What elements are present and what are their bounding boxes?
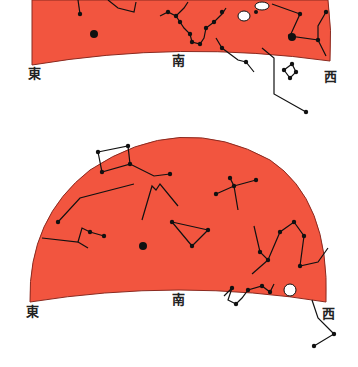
bottom-sky-dome <box>30 137 326 302</box>
star-icon <box>100 170 104 174</box>
star-icon <box>282 68 286 72</box>
star-icon <box>254 178 258 182</box>
star-icon <box>292 220 296 224</box>
star-icon <box>298 264 302 268</box>
star-icon <box>168 172 172 176</box>
star-chart-diagram: 東 南 西 東 南 西 <box>0 0 358 367</box>
star-icon <box>220 46 224 50</box>
star-icon <box>178 20 182 24</box>
constellation-hanging <box>262 48 308 114</box>
star-icon <box>174 14 178 18</box>
star-icon <box>228 176 232 180</box>
star-icon <box>244 60 248 64</box>
top-south-label: 南 <box>172 54 185 67</box>
star-icon <box>278 230 282 234</box>
star-icon <box>206 228 210 232</box>
bright-star-icon <box>90 30 98 38</box>
star-icon <box>258 250 262 254</box>
star-icon <box>290 62 294 66</box>
top-west-label: 西 <box>324 70 337 83</box>
star-icon <box>288 76 292 80</box>
star-icon <box>268 290 272 294</box>
star-icon <box>234 302 238 306</box>
bright-star-icon <box>139 242 147 250</box>
star-icon <box>190 40 194 44</box>
star-icon <box>266 258 270 262</box>
star-icon <box>332 332 336 336</box>
star-icon <box>304 110 308 114</box>
star-icon <box>78 12 82 16</box>
bright-star-icon <box>288 33 296 41</box>
star-icon <box>102 234 106 238</box>
top-east-label: 東 <box>28 67 41 80</box>
star-icon <box>232 184 236 188</box>
star-icon <box>324 10 328 14</box>
star-icon <box>204 26 208 30</box>
star-icon <box>312 344 316 348</box>
bottom-west-label: 西 <box>322 307 335 320</box>
star-icon <box>188 32 192 36</box>
star-icon <box>88 230 92 234</box>
constellation-small-quad <box>282 62 298 80</box>
star-icon <box>260 284 264 288</box>
star-icon <box>126 144 130 148</box>
star-icon <box>96 150 100 154</box>
bottom-south-label: 南 <box>172 293 185 306</box>
star-icon <box>298 12 302 16</box>
star-icon <box>246 288 250 292</box>
star-icon <box>128 162 132 166</box>
star-icon <box>230 286 234 290</box>
bottom-sky-panel <box>30 137 336 348</box>
nebula-icon <box>284 284 296 296</box>
star-icon <box>294 70 298 74</box>
star-icon <box>198 42 202 46</box>
star-icon <box>214 192 218 196</box>
star-icon <box>302 234 306 238</box>
star-icon <box>190 244 194 248</box>
star-icon <box>166 10 170 14</box>
star-icon <box>220 10 224 14</box>
star-icon <box>56 220 60 224</box>
star-icon <box>170 220 174 224</box>
bottom-east-label: 東 <box>26 305 39 318</box>
star-icon <box>212 20 216 24</box>
